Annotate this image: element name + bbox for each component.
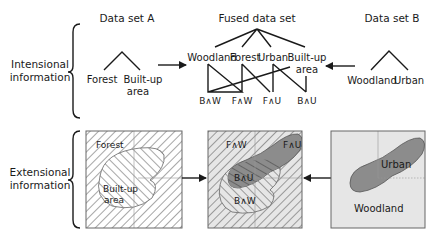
fused-leaf-f-and-u: F∧U: [263, 96, 281, 106]
intensional-label-line2: information: [10, 71, 71, 83]
map-fused-b-and-w: B∧W: [234, 196, 256, 206]
tree-b-urban: Urban: [394, 75, 424, 86]
fused-leaf-b-and-w: B∧W: [199, 96, 221, 106]
tree-a: Forest Built-up area: [87, 52, 163, 97]
fused-top-branches: [215, 29, 305, 47]
map-a-builtup-line2: area: [104, 195, 124, 205]
tree-a-branches: [104, 52, 140, 70]
fused-forest: Forest: [230, 52, 261, 63]
map-fused-f-and-w: F∧W: [226, 140, 247, 150]
tree-a-builtup-line2: area: [127, 86, 149, 97]
tree-b-woodland: Woodland: [347, 75, 396, 86]
extensional-label-line1: Extensional: [10, 166, 71, 178]
intensional-label-line1: Intensional: [11, 58, 69, 70]
dataset-b-header: Data set B: [365, 12, 420, 24]
dataset-a-header: Data set A: [100, 12, 156, 24]
tree-a-forest: Forest: [87, 74, 118, 85]
map-a-forest-label: Forest: [96, 140, 124, 150]
fused-urban: Urban: [258, 52, 288, 63]
map-b-urban-label: Urban: [381, 159, 411, 170]
extensional-label-line2: information: [10, 179, 71, 191]
map-b: Urban Woodland: [331, 131, 425, 228]
fused-leaf-f-and-w: F∧W: [232, 96, 253, 106]
tree-a-builtup-line1: Built-up: [124, 74, 163, 85]
fused-builtup-line2: area: [296, 64, 318, 75]
map-fused-f-and-u: F∧U: [283, 140, 301, 150]
fused-builtup-line1: Built-up: [288, 52, 327, 63]
tree-b-branches: [371, 51, 408, 70]
tree-fused: Woodland Forest Urban Built-up area B∧W …: [187, 29, 326, 106]
extensional-row-label: Extensional information: [10, 166, 71, 191]
extensional-brace-icon: [68, 131, 80, 228]
intensional-row-label: Intensional information: [10, 58, 71, 83]
map-fused-b-and-u: B∧U: [234, 173, 253, 183]
tree-b: Woodland Urban: [347, 51, 424, 86]
fused-leaf-b-and-u: B∧U: [297, 96, 316, 106]
data-fusion-diagram: Intensional information Extensional info…: [0, 0, 435, 237]
fused-lower-connections: [208, 64, 306, 92]
map-a: Forest Built-up area: [86, 131, 182, 228]
map-fused: F∧W F∧U B∧U B∧W: [208, 131, 303, 228]
map-a-builtup-line1: Built-up: [103, 184, 138, 194]
map-b-woodland-label: Woodland: [354, 203, 403, 214]
fused-dataset-header: Fused data set: [218, 12, 295, 24]
